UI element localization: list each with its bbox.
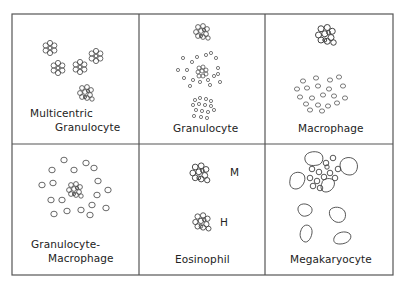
multicentric-granulocyte-colonies	[43, 40, 103, 101]
label-eosinophil: Eosinophil	[175, 253, 230, 265]
label-multicentric-line2: Granulocyte	[55, 121, 120, 133]
label-multicentric-line1: Multicentric	[30, 107, 93, 119]
marker-h: H	[220, 216, 228, 228]
panel-grid	[12, 14, 393, 275]
megakaryocyte-colonies	[290, 152, 358, 244]
granulocyte-colonies	[176, 24, 221, 120]
label-granulocyte: Granulocyte	[173, 122, 238, 134]
label-gm-line2: Macrophage	[48, 252, 114, 264]
label-macrophage: Macrophage	[298, 122, 364, 134]
label-gm-line1: Granulocyte-	[31, 238, 100, 250]
label-megakaryocyte: Megakaryocyte	[290, 253, 372, 265]
granulocyte-macrophage-colonies	[39, 157, 111, 218]
eosinophil-colonies	[190, 163, 211, 231]
marker-m: M	[230, 166, 239, 178]
macrophage-colonies	[294, 25, 347, 114]
